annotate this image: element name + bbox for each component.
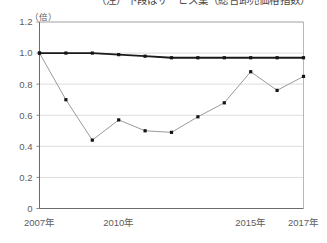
y-tick-label: 1.2 (19, 16, 32, 27)
y-tick-label: 0.6 (19, 110, 32, 121)
data-point-marker (223, 101, 226, 104)
data-point-marker (144, 129, 147, 132)
data-point-marker (64, 98, 67, 101)
data-point-marker (302, 75, 305, 78)
y-tick-label: 0 (27, 203, 32, 214)
data-point-marker (170, 131, 173, 134)
data-point-marker (64, 51, 67, 54)
chart-container: （注）下段はサービス業（総合卸売価格指数） （倍） 00.20.40.60.81… (0, 0, 327, 243)
data-point-marker (117, 118, 120, 121)
data-point-marker (91, 51, 94, 54)
data-point-marker (249, 56, 252, 59)
data-point-marker (144, 55, 147, 58)
data-series-layer (38, 51, 305, 141)
y-tick-label: 1.0 (19, 47, 32, 58)
data-point-marker (223, 56, 226, 59)
line-chart-plot: 00.20.40.60.81.01.2 2007年2010年2015年2017年 (0, 0, 327, 243)
data-point-marker (196, 115, 199, 118)
x-tick-label: 2015年 (235, 217, 266, 228)
data-point-marker (276, 56, 279, 59)
y-tick-label: 0.8 (19, 79, 32, 90)
y-tick-label: 0.4 (19, 141, 32, 152)
data-point-marker (38, 51, 41, 54)
x-tick-label: 2010年 (103, 217, 134, 228)
grid-lines (40, 22, 304, 177)
data-point-marker (276, 89, 279, 92)
data-point-marker (117, 53, 120, 56)
data-point-marker (302, 56, 305, 59)
y-axis-tick-labels: 00.20.40.60.81.01.2 (19, 16, 39, 214)
data-point-marker (91, 139, 94, 142)
data-point-marker (249, 70, 252, 73)
x-tick-label: 2017年 (288, 217, 319, 228)
data-point-marker (196, 56, 199, 59)
x-axis-tick-labels: 2007年2010年2015年2017年 (24, 217, 319, 228)
y-tick-label: 0.2 (19, 172, 32, 183)
x-tick-label: 2007年 (24, 217, 55, 228)
series-line (40, 53, 304, 140)
data-point-marker (170, 56, 173, 59)
